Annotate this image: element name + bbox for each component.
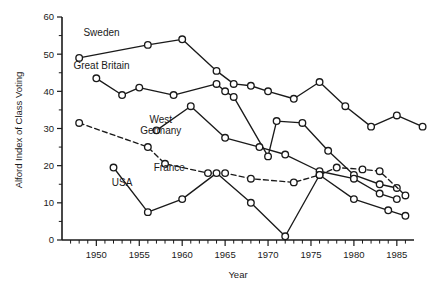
- data-point-marker: [325, 148, 332, 155]
- data-point-marker: [385, 207, 392, 214]
- y-tick-label: 40: [43, 86, 54, 97]
- series-label-west-germany: Germany: [140, 125, 181, 136]
- data-point-marker: [205, 170, 212, 177]
- data-point-marker: [376, 181, 383, 188]
- data-point-marker: [316, 79, 323, 86]
- series-label-west-germany: West: [149, 114, 172, 125]
- data-point-marker: [273, 118, 280, 125]
- series-label-france: France: [154, 162, 186, 173]
- data-point-marker: [351, 175, 358, 182]
- data-point-marker: [376, 168, 383, 175]
- data-point-marker: [93, 75, 100, 82]
- data-point-marker: [145, 42, 152, 49]
- data-point-marker: [291, 95, 298, 102]
- data-point-marker: [248, 175, 255, 182]
- data-point-marker: [265, 153, 272, 160]
- data-point-marker: [222, 134, 229, 141]
- data-point-marker: [248, 82, 255, 89]
- data-point-marker: [145, 144, 152, 151]
- data-point-marker: [316, 172, 323, 179]
- data-point-marker: [376, 190, 383, 197]
- y-tick-label: 50: [43, 49, 54, 60]
- data-point-marker: [282, 233, 289, 240]
- series-label-sweden: Sweden: [83, 27, 119, 38]
- data-point-marker: [170, 92, 177, 99]
- x-tick-label: 1965: [215, 249, 236, 260]
- data-point-marker: [402, 192, 409, 199]
- series-great-britain: [93, 75, 400, 191]
- x-tick-label: 1970: [257, 249, 278, 260]
- data-point-marker: [187, 103, 194, 110]
- data-point-marker: [222, 88, 229, 95]
- data-point-marker: [265, 88, 272, 95]
- series-usa: [110, 164, 409, 239]
- y-tick-label: 10: [43, 197, 54, 208]
- data-point-marker: [333, 164, 340, 171]
- series-sweden: [76, 36, 426, 130]
- series-label-group: SwedenGreat BritainWestGermanyFranceUSA: [73, 27, 185, 189]
- data-point-marker: [282, 151, 289, 158]
- y-tick-label: 20: [43, 160, 54, 171]
- data-point-marker: [136, 84, 143, 91]
- data-point-marker: [179, 196, 186, 203]
- x-axis-title: Year: [228, 269, 247, 280]
- data-point-marker: [230, 81, 237, 88]
- data-point-marker: [368, 123, 375, 130]
- data-point-marker: [213, 81, 220, 88]
- x-tick-label: 1950: [86, 249, 107, 260]
- data-point-marker: [213, 68, 220, 75]
- data-point-marker: [222, 170, 229, 177]
- y-tick-label: 30: [43, 123, 54, 134]
- data-point-marker: [248, 200, 255, 207]
- data-point-marker: [419, 123, 426, 130]
- data-point-marker: [256, 144, 263, 151]
- data-point-marker: [402, 213, 409, 220]
- data-point-marker: [110, 164, 117, 171]
- data-point-marker: [213, 170, 220, 177]
- data-point-marker: [299, 120, 306, 127]
- chart-canvas: 0102030405060 19501955196019651970197519…: [0, 0, 427, 284]
- data-point-marker: [119, 92, 126, 99]
- series-label-usa: USA: [112, 177, 133, 188]
- alford-index-line-chart: 0102030405060 19501955196019651970197519…: [0, 0, 427, 284]
- series-label-great-britain: Great Britain: [73, 60, 129, 71]
- x-tick-label: 1960: [172, 249, 193, 260]
- data-point-marker: [394, 112, 401, 119]
- x-tick-label: 1980: [343, 249, 364, 260]
- data-point-marker: [291, 179, 298, 186]
- data-point-marker: [351, 196, 358, 203]
- data-point-marker: [179, 36, 186, 43]
- y-axis-title: Alford Index of Class Voting: [13, 72, 24, 189]
- y-tick-label: 0: [49, 234, 54, 245]
- data-point-marker: [342, 103, 349, 110]
- x-tick-label: 1975: [300, 249, 321, 260]
- y-axis: 0102030405060: [43, 11, 62, 245]
- x-axis: 19501955196019651970197519801985: [62, 240, 414, 260]
- data-point-marker: [76, 120, 83, 127]
- data-point-marker: [230, 94, 237, 101]
- data-point-marker: [359, 166, 366, 173]
- data-point-marker: [394, 196, 401, 203]
- x-tick-label: 1955: [129, 249, 150, 260]
- data-point-marker: [145, 209, 152, 216]
- y-tick-label: 60: [43, 11, 54, 22]
- x-tick-label: 1985: [386, 249, 407, 260]
